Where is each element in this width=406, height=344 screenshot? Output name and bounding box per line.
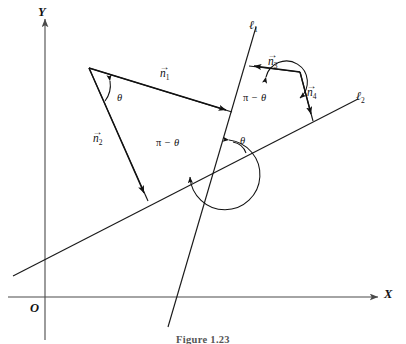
geometry-diagram <box>0 0 406 344</box>
line-l2 <box>13 99 358 276</box>
vector-n4-subscript: 4 <box>313 92 317 101</box>
line-l1-subscript: 1 <box>254 25 258 34</box>
line-label-l1: ℓ1 <box>249 19 258 34</box>
minus-symbol-right: − <box>252 92 258 103</box>
line-label-l2: ℓ2 <box>356 90 365 105</box>
vector-n1-subscript: 1 <box>166 73 170 82</box>
figure-caption: Figure 1.23 <box>0 334 406 344</box>
vector-n3-subscript: 3 <box>274 61 278 70</box>
vector-n2-subscript: 2 <box>99 138 103 147</box>
origin-label: O <box>30 302 39 315</box>
vector-n4-harpoon: → <box>307 81 317 91</box>
vector-n2-harpoon: → <box>93 127 103 137</box>
vector-n1-harpoon: → <box>160 62 170 72</box>
pi-symbol-left: π <box>156 137 162 148</box>
angle-arc-pi-minus-theta-left <box>190 140 260 210</box>
x-axis-label: X <box>384 288 392 301</box>
figure-container: Y X O ℓ1 ℓ2 → n1 → n2 → n3 → n4 θ θ <box>0 0 406 344</box>
line-l2-subscript: 2 <box>361 96 365 105</box>
vector-label-n3: → n3 <box>268 56 278 70</box>
vector-label-n4: → n4 <box>307 87 317 101</box>
theta-symbol-left: θ <box>174 137 180 148</box>
angle-arc-theta-apex <box>105 81 110 101</box>
angle-label-pi-minus-theta-left: π − θ <box>156 138 180 149</box>
vector-label-n2: → n2 <box>93 133 103 147</box>
line-l1 <box>168 27 256 327</box>
angle-label-pi-minus-theta-right: π − θ <box>243 93 267 104</box>
minus-symbol-left: − <box>165 137 171 148</box>
theta-symbol-right: θ <box>261 92 267 103</box>
angle-label-theta-apex: θ <box>117 93 122 104</box>
vector-n3-harpoon: → <box>268 50 278 60</box>
vector-label-n1: → n1 <box>160 68 170 82</box>
y-axis-label: Y <box>38 6 46 19</box>
angle-label-theta-intersection: θ <box>240 136 245 147</box>
pi-symbol-right: π <box>243 92 249 103</box>
vector-n1-arrow <box>89 68 226 110</box>
